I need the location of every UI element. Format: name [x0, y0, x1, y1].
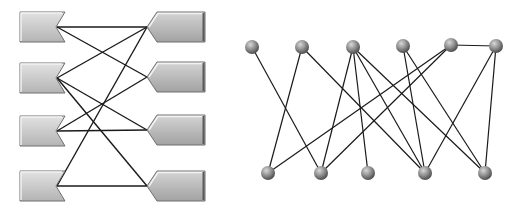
edge-T6-B5 — [485, 46, 496, 173]
sphere-node-B3 — [361, 166, 375, 180]
edge-T1-B2 — [252, 47, 321, 173]
edge-T6-B4 — [425, 46, 496, 173]
edge-L2-R4 — [57, 78, 147, 186]
right-pointed-shape-R4 — [147, 171, 205, 201]
sphere-node-T5 — [444, 38, 458, 52]
right-pointed-shape-R3 — [147, 115, 205, 145]
diagram-canvas — [0, 0, 521, 211]
sphere-node-T4 — [396, 39, 410, 53]
edge-T4-B5 — [403, 46, 485, 173]
edge-T3-B3 — [353, 47, 368, 173]
right-pointed-shape-R2 — [147, 62, 205, 92]
sphere-node-T1 — [245, 40, 259, 54]
right-pointed-shape-R1 — [147, 12, 205, 42]
left-diagram-shapes — [20, 12, 205, 201]
edge-T3-B2 — [321, 47, 353, 173]
right-diagram-nodes — [245, 38, 503, 180]
sphere-node-T3 — [346, 40, 360, 54]
edge-L4-R1 — [57, 27, 147, 186]
sphere-node-B5 — [478, 166, 492, 180]
edge-T2-B1 — [268, 47, 302, 173]
left-diagram-edges — [57, 27, 147, 186]
right-diagram-edges — [252, 45, 496, 173]
sphere-node-B1 — [261, 166, 275, 180]
sphere-node-T6 — [489, 39, 503, 53]
bipartite-diagrams — [0, 0, 521, 211]
edge-T5-B2 — [321, 45, 451, 173]
sphere-node-B2 — [314, 166, 328, 180]
edge-T3-B5 — [353, 47, 485, 173]
sphere-node-T2 — [295, 40, 309, 54]
sphere-node-B4 — [418, 166, 432, 180]
edge-L3-R3 — [57, 130, 147, 131]
edge-T5-B1 — [268, 45, 451, 173]
